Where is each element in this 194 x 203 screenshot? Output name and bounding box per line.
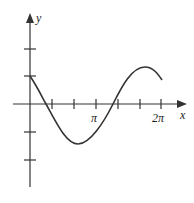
y-axis [26,13,34,187]
x-axis-label: x [179,108,186,122]
pi-tick-label: π [91,111,98,125]
y-axis-arrow-icon [26,13,34,23]
two-pi-tick-label: 2π [152,111,165,125]
chart: y x π 2π [0,0,194,203]
y-axis-label: y [35,11,42,25]
x-axis-arrow-icon [177,100,187,108]
